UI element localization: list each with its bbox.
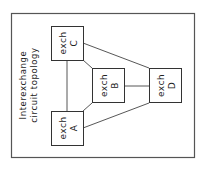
node-exch-d: exch D (150, 69, 182, 103)
title-line-1: Interexchange (18, 51, 28, 120)
node-id: B (110, 82, 120, 89)
topology-diagram: Interexchange circuit topology exch C ex… (0, 0, 207, 174)
diagram-title: Interexchange circuit topology (18, 47, 39, 123)
link-c-d (83, 43, 149, 68)
title-line-2: circuit topology (29, 47, 39, 123)
link-c-b (83, 60, 92, 68)
node-label: exch (156, 74, 166, 97)
node-id: D (167, 82, 177, 89)
node-id: A (69, 124, 79, 131)
node-exch-c: exch C (52, 27, 84, 61)
link-a-b (83, 103, 92, 111)
node-label: exch (99, 74, 109, 97)
node-id: C (69, 40, 79, 47)
node-exch-a: exch A (52, 112, 84, 146)
node-label: exch (58, 31, 68, 54)
node-exch-b: exch B (93, 69, 125, 103)
link-a-d (83, 103, 149, 128)
node-label: exch (58, 116, 68, 139)
